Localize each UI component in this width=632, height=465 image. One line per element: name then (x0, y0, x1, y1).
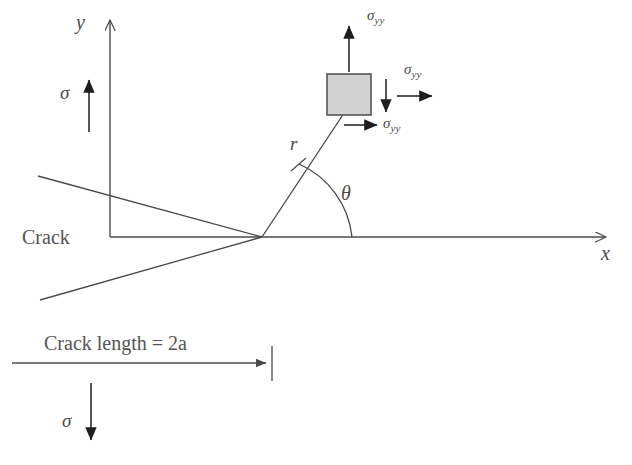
diagram-canvas (0, 0, 632, 465)
sigma-tension-bottom-label: σ (62, 411, 71, 430)
crack-length-label: Crack length = 2a (44, 333, 187, 353)
sigma-yy-up-label: σyy (367, 8, 385, 26)
theta-label: θ (341, 183, 351, 203)
sigma-yy-right-label: σyy (404, 62, 422, 80)
stress-element-square (327, 74, 371, 115)
sigma-yy-bottom-right-subscript: yy (390, 122, 400, 134)
sigma-yy-up-subscript: yy (374, 14, 384, 26)
y-axis-label: y (76, 12, 85, 32)
sigma-tension-top-label: σ (60, 83, 69, 102)
sigma-yy-right-subscript: yy (411, 68, 421, 80)
x-axis-label: x (601, 243, 610, 263)
crack-shape (38, 176, 262, 300)
radius-vector (262, 101, 352, 237)
crack-tip-stress-diagram: y x σ σ Crack Crack length = 2a r θ σyy … (0, 0, 632, 465)
sigma-yy-bottom-right-label: σyy (383, 116, 401, 134)
radius-label: r (290, 134, 297, 153)
crack-label: Crack (22, 227, 70, 247)
